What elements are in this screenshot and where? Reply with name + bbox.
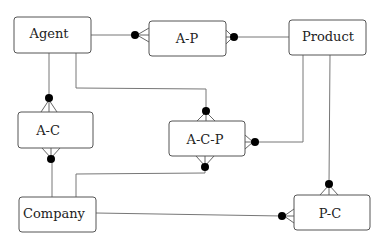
crow-foot-ap-right [226,30,238,44]
entity-company[interactable]: Company [19,197,96,232]
entity-acp[interactable]: A-C-P [169,121,245,156]
entity-product[interactable]: Product [289,20,366,55]
entity-label-product: Product [302,29,355,44]
er-diagram: Agent A-P Product A-C A-C-P Company P-C [0,0,387,244]
dot-ap-right [230,33,238,41]
crow-foot-ap-left [131,28,149,42]
crow-foot-acp-top [197,107,215,121]
entity-pc[interactable]: P-C [294,195,370,230]
entity-label-agent: Agent [29,26,70,41]
dot-pc-top [325,180,333,188]
dot-ac-bottom [47,155,55,163]
entity-ap[interactable]: A-P [149,21,226,56]
dot-acp-right [251,138,259,146]
line-agent-acp [76,53,206,111]
crow-foot-pc-left [278,209,294,223]
entity-label-pc: P-C [319,206,341,221]
crow-foot-acp-right [245,135,259,149]
dot-acp-bottom [201,163,209,171]
crow-foot-ac-top [41,94,57,112]
crow-foot-ac-bottom [42,148,60,163]
crow-foot-pc-top [320,180,338,195]
entity-label-acp: A-C-P [186,132,224,147]
line-product-acp [255,55,303,142]
dot-ac-top [45,94,53,102]
entity-label-ap: A-P [175,31,199,46]
entity-label-ac: A-C [35,123,60,138]
entity-ac[interactable]: A-C [18,112,93,148]
dot-acp-top [202,107,210,115]
dot-pc-left [278,212,286,220]
dot-ap-left [131,31,139,39]
crow-foot-acp-bottom [196,156,214,171]
line-company-acp [76,167,205,197]
entity-label-company: Company [23,206,86,221]
line-product-pc [329,55,330,184]
entity-agent[interactable]: Agent [14,17,91,53]
line-company-pc [96,213,282,216]
